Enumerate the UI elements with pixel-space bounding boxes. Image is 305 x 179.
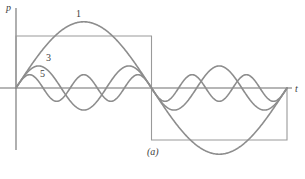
figure-caption: (a) bbox=[147, 147, 159, 157]
x-axis-label: t bbox=[295, 84, 298, 94]
harmonic-5-label: 5 bbox=[40, 69, 45, 79]
harmonic-3-label: 3 bbox=[46, 53, 51, 63]
figure-container: p t 1 3 5 (a) bbox=[0, 0, 305, 179]
harmonic-1-label: 1 bbox=[76, 9, 81, 19]
y-axis-label: p bbox=[6, 3, 11, 13]
